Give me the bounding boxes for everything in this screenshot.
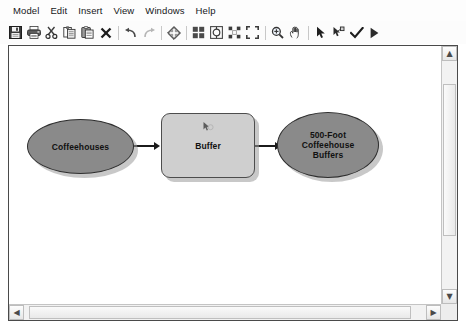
toolbar-separator-2 [161, 26, 162, 40]
chevron-up-icon: ▲ [446, 50, 452, 58]
horizontal-scroll-thumb[interactable] [29, 306, 411, 319]
toolbar-separator-4 [265, 26, 266, 40]
grid-squares-icon [192, 26, 205, 39]
scroll-down-button[interactable]: ▼ [442, 289, 457, 304]
play-triangle-icon [369, 27, 380, 39]
menu-item-view[interactable]: View [109, 3, 141, 18]
cut-button[interactable] [43, 24, 60, 41]
output-data-node-label: 500-Foot Coffeehouse Buffers [302, 130, 355, 160]
print-icon [27, 26, 41, 39]
cursor-arrow-icon [315, 26, 327, 39]
menu-bar: Model Edit Insert View Windows Help [0, 0, 466, 21]
add-data-button[interactable] [165, 24, 182, 41]
scroll-up-button[interactable]: ▲ [442, 46, 457, 61]
model-canvas[interactable]: Coffeehouses Buffer 500-Foot Coffeehouse… [9, 46, 441, 304]
tool-cursor-marker-icon [202, 120, 215, 138]
paste-icon [81, 26, 94, 39]
run-button[interactable] [366, 24, 383, 41]
pan-button[interactable] [287, 24, 304, 41]
paste-button[interactable] [79, 24, 96, 41]
undo-button[interactable] [122, 24, 139, 41]
output-data-node[interactable]: 500-Foot Coffeehouse Buffers [277, 112, 379, 178]
model-canvas-frame: Coffeehouses Buffer 500-Foot Coffeehouse… [8, 45, 458, 321]
scrollbar-corner [441, 304, 457, 320]
connector-input-to-tool-arrowhead [154, 142, 160, 150]
copy-icon [63, 26, 76, 39]
chevron-right-icon: ▶ [430, 309, 436, 317]
menu-item-insert[interactable]: Insert [73, 3, 108, 18]
input-data-node[interactable]: Coffeehouses [27, 119, 134, 174]
vertical-scrollbar[interactable]: ▲ ▼ [441, 46, 457, 304]
copy-button[interactable] [61, 24, 78, 41]
zoom-in-button[interactable] [269, 24, 286, 41]
print-button[interactable] [25, 24, 42, 41]
scroll-left-button[interactable]: ◀ [9, 305, 24, 320]
menu-item-help[interactable]: Help [191, 3, 222, 18]
input-data-node-label: Coffeehouses [52, 142, 109, 152]
hand-icon [289, 26, 302, 39]
tool-node-label: Buffer [195, 141, 221, 151]
toolbar [0, 21, 466, 44]
scissors-icon [45, 26, 58, 39]
save-button[interactable] [7, 24, 24, 41]
menu-item-model[interactable]: Model [8, 3, 45, 18]
diamond-plus-icon [167, 26, 181, 40]
full-extent-icon [228, 26, 241, 39]
full-extent-button[interactable] [226, 24, 243, 41]
toolbar-separator-5 [308, 26, 309, 40]
chevron-left-icon: ◀ [13, 309, 19, 317]
menu-item-windows[interactable]: Windows [140, 3, 190, 18]
magnifier-icon [271, 26, 284, 39]
model-builder-window: Model Edit Insert View Windows Help [0, 0, 466, 331]
checkmark-icon [350, 27, 364, 39]
vertical-scroll-thumb[interactable] [443, 84, 456, 236]
zoom-selected-icon [246, 26, 259, 39]
validate-button[interactable] [348, 24, 365, 41]
delete-button[interactable] [97, 24, 114, 41]
diagram-properties-button[interactable] [208, 24, 225, 41]
diagram-gear-icon [210, 26, 223, 39]
connect-icon [332, 26, 345, 39]
redo-arrow-icon [142, 27, 156, 39]
select-button[interactable] [312, 24, 329, 41]
chevron-down-icon: ▼ [446, 293, 452, 301]
scroll-right-button[interactable]: ▶ [426, 305, 441, 320]
redo-button[interactable] [140, 24, 157, 41]
zoom-to-selected-button[interactable] [244, 24, 261, 41]
undo-arrow-icon [124, 27, 138, 39]
toolbar-separator-3 [186, 26, 187, 40]
menu-item-edit[interactable]: Edit [45, 3, 73, 18]
horizontal-scrollbar[interactable]: ◀ ▶ [9, 304, 441, 320]
connect-button[interactable] [330, 24, 347, 41]
auto-layout-button[interactable] [190, 24, 207, 41]
save-icon [9, 26, 22, 39]
toolbar-separator-1 [118, 26, 119, 40]
close-x-icon [100, 27, 112, 39]
